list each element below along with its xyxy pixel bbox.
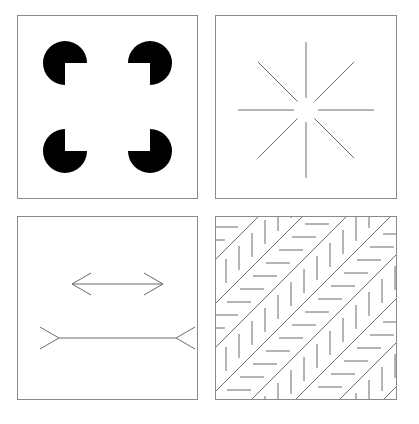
- panel-ehrenstein-rays: [215, 15, 397, 199]
- panel-kanizsa-square: [17, 15, 198, 199]
- ehrenstein-canvas: [215, 15, 397, 199]
- kanizsa-canvas: [17, 15, 198, 199]
- muller-lyer-canvas: [17, 216, 198, 400]
- zollner-canvas: [215, 216, 397, 400]
- illusion-figure: [0, 0, 419, 424]
- panel-border: [18, 16, 198, 199]
- panel-muller-lyer: [17, 216, 198, 400]
- panel-zollner: [215, 216, 397, 400]
- panel-border: [18, 217, 198, 400]
